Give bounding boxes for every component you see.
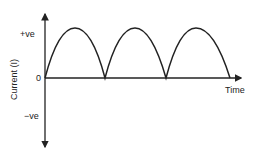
rectified-wave <box>45 28 230 78</box>
y-axis-label: Current (I) <box>9 59 19 100</box>
y-tick-zero: 0 <box>36 73 41 83</box>
y-tick-negative: −ve <box>24 111 39 121</box>
y-tick-positive: +ve <box>20 29 35 39</box>
x-axis-label: Time <box>225 85 245 95</box>
diagram-canvas: +ve 0 −ve Current (I) Time <box>0 0 255 155</box>
